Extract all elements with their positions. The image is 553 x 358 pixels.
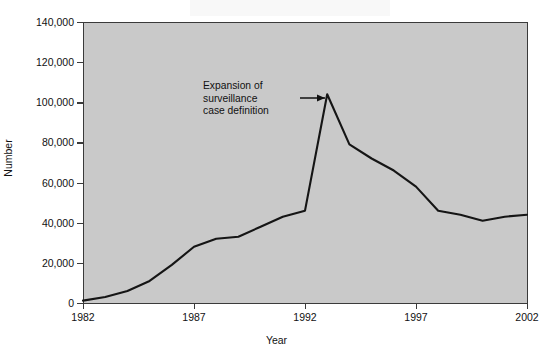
data-series-line	[83, 94, 527, 300]
chart-figure: 140,000 120,000 100,000 80,000 60,000 40…	[0, 0, 553, 358]
chart-svg	[0, 0, 553, 358]
annotation-arrow-icon	[300, 95, 325, 102]
